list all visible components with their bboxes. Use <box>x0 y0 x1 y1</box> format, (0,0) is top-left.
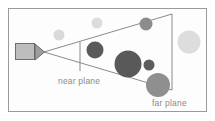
near-plane-label: near plane <box>58 76 100 86</box>
sphere-far-plane-gray <box>146 73 170 97</box>
camera-body <box>16 44 35 60</box>
far-plane-label: far plane <box>152 98 187 108</box>
sphere-outside-right <box>178 31 201 54</box>
figure-panel-border <box>9 9 207 112</box>
sphere-small-dark <box>144 60 155 71</box>
sphere-outside-upper-left <box>54 30 65 41</box>
sphere-center-large-dark <box>115 51 142 78</box>
sphere-on-top-plane <box>140 18 153 31</box>
frustum-diagram-canvas: near plane far plane <box>0 0 215 121</box>
sphere-near-plane-dark <box>87 42 104 59</box>
view-frustum-figure: near plane far plane <box>0 0 215 121</box>
sphere-outside-upper-mid <box>92 18 103 29</box>
